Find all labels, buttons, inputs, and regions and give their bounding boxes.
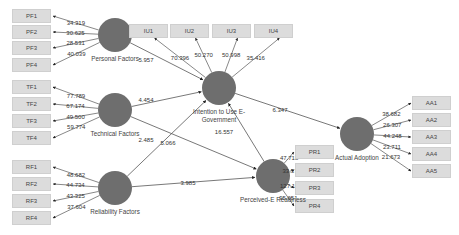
construct-label-pr: Perceived-E Readiness [238, 196, 308, 204]
loading-value-pf2: 30.625 [66, 30, 85, 36]
loading-value-pf1: 34.319 [67, 20, 86, 26]
indicator-rf1[interactable]: RF1 [12, 160, 51, 174]
loading-value-tf2: 67.174 [66, 103, 85, 109]
indicator-pf3[interactable]: PF3 [12, 41, 51, 55]
path-coefficient-label: 6.347 [272, 107, 288, 113]
construct-rf[interactable] [98, 171, 132, 205]
indicator-pr2[interactable]: PR2 [295, 163, 334, 177]
loading-value-rf3: 43.325 [67, 193, 86, 199]
construct-iu[interactable] [202, 71, 236, 105]
construct-aa[interactable] [340, 117, 374, 151]
indicator-pf2[interactable]: PF2 [12, 25, 51, 39]
indicator-aa5[interactable]: AA5 [412, 164, 451, 178]
indicator-rf3[interactable]: RF3 [12, 194, 51, 208]
loading-value-aa3: 44.248 [383, 133, 402, 139]
indicator-tf4[interactable]: TF4 [12, 131, 51, 145]
path-coefficient-label: 5.066 [160, 140, 176, 146]
loading-value-aa2: 26.307 [383, 122, 402, 128]
indicator-aa2[interactable]: AA2 [412, 113, 451, 127]
indicator-tf3[interactable]: TF3 [12, 114, 51, 128]
indicator-iu1[interactable]: IU1 [129, 24, 168, 38]
indicator-aa4[interactable]: AA4 [412, 147, 451, 161]
indicator-pf4[interactable]: PF4 [12, 58, 51, 72]
indicator-iu3[interactable]: IU3 [212, 24, 251, 38]
construct-label-aa: Actual Adoption [322, 154, 392, 162]
indicator-iu4[interactable]: IU4 [254, 24, 293, 38]
construct-pf[interactable] [98, 18, 132, 52]
indicator-aa1[interactable]: AA1 [412, 96, 451, 110]
indicator-pf1[interactable]: PF1 [12, 9, 51, 23]
construct-label-rf: Reliability Factors [80, 208, 150, 216]
loading-value-tf3: 49.500 [66, 114, 85, 120]
indicator-tf1[interactable]: TF1 [12, 80, 51, 94]
construct-label-pf: Personal Factors [80, 55, 150, 63]
loading-value-iu1: 70.396 [171, 55, 190, 61]
indicator-tf2[interactable]: TF2 [12, 97, 51, 111]
loading-value-tf1: 77.789 [67, 93, 86, 99]
path-coefficient-label: 3.985 [180, 180, 196, 186]
indicator-rf2[interactable]: RF2 [12, 177, 51, 191]
loading-value-aa1: 38.682 [382, 111, 401, 117]
indicator-aa3[interactable]: AA3 [412, 130, 451, 144]
indicator-iu2[interactable]: IU2 [170, 24, 209, 38]
construct-tf[interactable] [98, 93, 132, 127]
loading-value-rf1: 48.682 [67, 172, 86, 178]
loading-value-pf3: 28.531 [67, 40, 86, 46]
loading-value-iu2: 50.270 [194, 52, 213, 58]
path-coefficient-label: 16.557 [215, 129, 234, 135]
loading-value-aa4: 23.711 [383, 144, 402, 150]
loading-value-iu4: 35.416 [247, 55, 266, 61]
construct-label-iu: Intention to Use E-Government [184, 108, 254, 124]
construct-label-tf: Technical Factors [80, 130, 150, 138]
indicator-pr3[interactable]: PR3 [295, 181, 334, 195]
indicator-rf4[interactable]: RF4 [12, 211, 51, 225]
path-coefficient-label: 4.454 [138, 97, 154, 103]
loading-value-iu3: 50.998 [222, 52, 241, 58]
loading-value-rf2: 44.734 [66, 182, 85, 188]
